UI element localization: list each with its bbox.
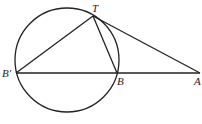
tangent-line xyxy=(93,16,200,73)
point-label-t: T xyxy=(92,2,99,14)
point-label-b-prime: B′ xyxy=(2,67,12,79)
point-label-b: B xyxy=(117,75,124,87)
chord-b-prime-t xyxy=(16,16,93,73)
circle xyxy=(15,8,119,112)
point-label-a: A xyxy=(193,75,201,87)
diagram-canvas: T B′ B A xyxy=(0,0,202,124)
geometry-diagram: T B′ B A xyxy=(0,0,202,124)
